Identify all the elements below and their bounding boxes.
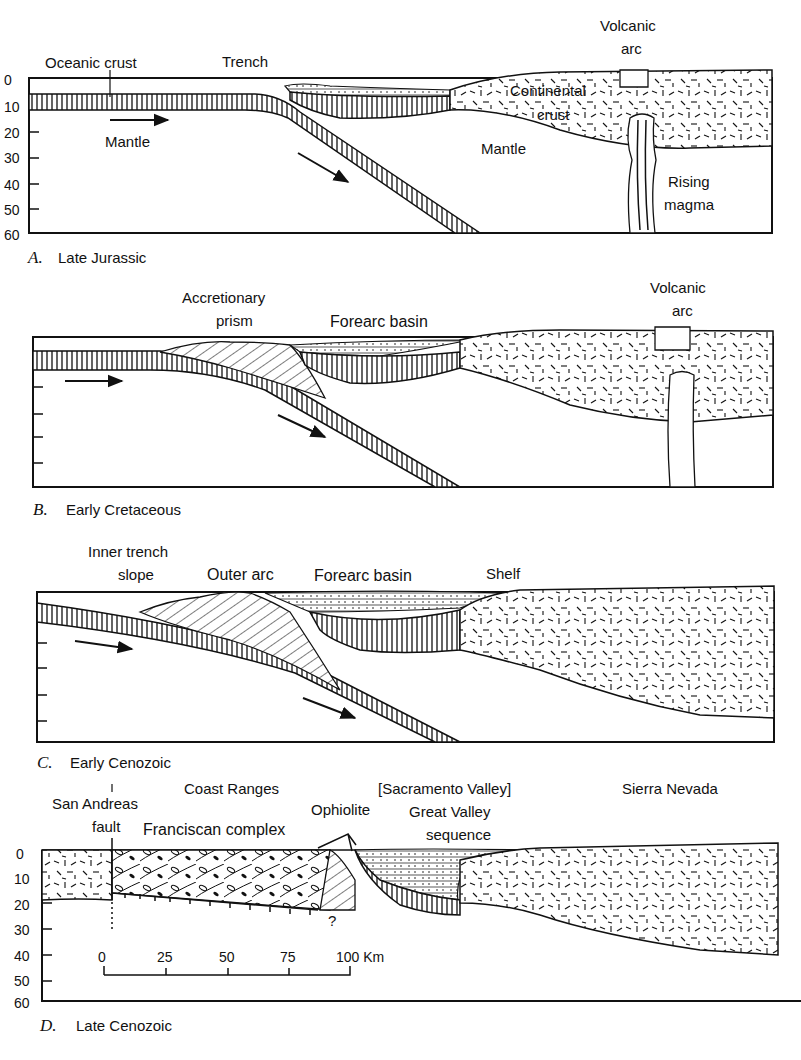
- depth-tick: 60: [14, 995, 30, 1011]
- label-outer-arc: Outer arc: [207, 566, 274, 583]
- label-san-andreas-fault: San Andreas: [52, 795, 138, 812]
- label-volcanic-arc: arc: [621, 40, 642, 57]
- label-sierra-nevada: Sierra Nevada: [622, 780, 719, 797]
- label-mantle: Mantle: [481, 140, 526, 157]
- label-sacramento-valley: [Sacramento Valley]: [378, 780, 511, 797]
- caption-letter: B.: [33, 500, 48, 519]
- label-question-mark: ?: [328, 912, 336, 929]
- label-volcanic-arc: Volcanic: [650, 279, 706, 296]
- depth-tick: 0: [4, 72, 12, 88]
- tectonic-cross-sections: 0 10 20 30 40 50 60 Oceanic crust Trench…: [0, 0, 801, 1060]
- label-rising-magma: Rising: [668, 173, 710, 190]
- caption-late-cenozoic: Late Cenozoic: [76, 1017, 172, 1034]
- label-mantle: Mantle: [105, 133, 150, 150]
- depth-tick: 30: [4, 150, 20, 166]
- scale-tick: 100 Km: [336, 949, 384, 965]
- label-continental-crust: crust: [537, 106, 570, 123]
- depth-tick: 20: [14, 897, 30, 913]
- label-rising-magma: magma: [664, 196, 715, 213]
- label-oceanic-crust: Oceanic crust: [45, 54, 138, 71]
- panel-d: 0 10 20 30 40 50 60 0 2: [14, 780, 801, 1035]
- label-trench: Trench: [222, 53, 268, 70]
- depth-tick: 30: [14, 922, 30, 938]
- caption-letter: D.: [39, 1016, 57, 1035]
- caption-late-jurassic: Late Jurassic: [58, 249, 147, 266]
- panel-c: Inner trench slope Outer arc Forearc bas…: [37, 543, 774, 772]
- scale-tick: 50: [219, 949, 235, 965]
- label-san-andreas-fault: fault: [92, 818, 121, 835]
- label-shelf: Shelf: [486, 565, 521, 582]
- label-coast-ranges: Coast Ranges: [184, 780, 279, 797]
- label-forearc-basin: Forearc basin: [330, 313, 428, 330]
- label-continental-crust: Continental: [510, 82, 586, 99]
- caption-letter: A.: [27, 248, 43, 267]
- label-accretionary-prism: prism: [216, 312, 253, 329]
- label-franciscan-complex: Franciscan complex: [143, 821, 285, 838]
- label-accretionary-prism: Accretionary: [182, 289, 266, 306]
- depth-tick: 0: [16, 846, 24, 862]
- depth-tick: 10: [4, 99, 20, 115]
- label-volcanic-arc: arc: [672, 302, 693, 319]
- label-ophiolite: Ophiolite: [311, 801, 370, 818]
- depth-tick: 40: [4, 177, 20, 193]
- scale-tick: 25: [157, 949, 173, 965]
- label-great-valley-sequence: Great Valley: [409, 803, 491, 820]
- label-great-valley-sequence: sequence: [426, 826, 491, 843]
- depth-tick: 40: [14, 948, 30, 964]
- depth-tick: 10: [14, 871, 30, 887]
- caption-early-cretaceous: Early Cretaceous: [66, 501, 181, 518]
- scale-tick: 75: [280, 949, 296, 965]
- panel-b: Accretionary prism Forearc basin Volcani…: [33, 279, 773, 519]
- depth-tick: 60: [4, 227, 20, 243]
- label-inner-trench-slope: Inner trench: [88, 543, 168, 560]
- label-inner-trench-slope: slope: [118, 566, 154, 583]
- caption-letter: C.: [37, 753, 53, 772]
- scale-bar: 0 25 50 75 100 Km: [98, 949, 384, 975]
- scale-tick: 0: [98, 949, 106, 965]
- depth-tick: 50: [14, 973, 30, 989]
- label-volcanic-arc: Volcanic: [600, 17, 656, 34]
- caption-early-cenozoic: Early Cenozoic: [70, 754, 171, 771]
- label-forearc-basin: Forearc basin: [314, 567, 412, 584]
- depth-tick: 20: [4, 125, 20, 141]
- depth-tick: 50: [4, 202, 20, 218]
- panel-a: 0 10 20 30 40 50 60 Oceanic crust Trench…: [4, 17, 772, 267]
